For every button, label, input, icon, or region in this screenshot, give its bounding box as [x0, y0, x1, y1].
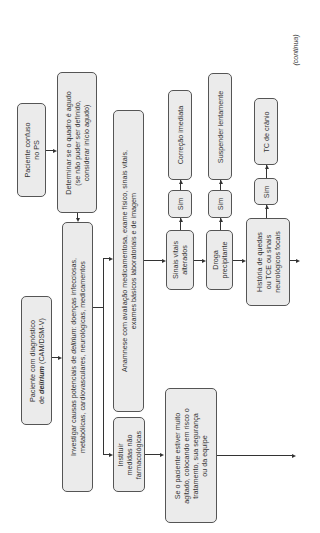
connector	[144, 260, 155, 261]
arrow-head-icon	[219, 218, 223, 222]
node-determinar-agudo: Determinar se o quadro é agudo(se não pu…	[57, 72, 97, 213]
node-tc-cranio: TC de crânio	[254, 98, 278, 165]
node-sim-1: Sim	[168, 190, 192, 218]
node-paciente-agitado: Se o paciente estiver muitoagitado, colo…	[165, 388, 217, 523]
node-suspender-lentamente: Suspender lentamente	[208, 73, 232, 180]
node-sim-2: Sim	[208, 190, 232, 218]
node-sinais-vitais: Sinais vitaisalterados	[166, 230, 194, 290]
arrow-head-icon	[179, 218, 183, 222]
node-correcao-imediata: Correção imediata	[168, 90, 192, 180]
arrow-head-icon	[179, 180, 183, 184]
continuation-note: (continua)	[288, 20, 302, 80]
node-sim-3: Sim	[254, 178, 278, 205]
node-anamnese: Anamnese com avaliação medicamentosa, ex…	[113, 110, 144, 412]
node-diagnostico-delirium: Paciente com diagnósticode delirium (CAM…	[21, 296, 52, 425]
arrow-head-icon	[160, 453, 164, 457]
arrow-head-icon	[265, 205, 269, 209]
arrow-head-icon	[265, 165, 269, 169]
connector	[93, 307, 103, 308]
arrow-head-icon	[296, 259, 300, 263]
node-droga-precipitante: Drogaprecipitante	[206, 230, 233, 290]
node-historia-quedas: História de quedasou TCE ou sinaisneurol…	[246, 218, 290, 306]
connector	[217, 455, 293, 456]
arrow-head-icon	[219, 180, 223, 184]
node-paciente-confuso: Paciente confusono PS	[17, 103, 46, 197]
connector	[145, 454, 161, 455]
connector	[103, 258, 104, 454]
node-investigar-causas: Investigar causas potenciais de delirium…	[62, 222, 93, 492]
node-instituir-medidas: Instituirmedidas nãofarmacológicas	[113, 417, 145, 492]
arrow-head-icon	[292, 454, 296, 458]
